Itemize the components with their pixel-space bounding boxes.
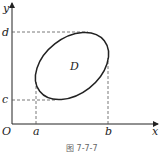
origin-label: O bbox=[2, 125, 11, 138]
tick-label-c: c bbox=[2, 93, 8, 106]
region-label-d: D bbox=[69, 60, 79, 73]
tick-label-a: a bbox=[33, 125, 40, 138]
x-axis-label: x bbox=[152, 125, 159, 138]
tick-label-d: d bbox=[2, 26, 9, 39]
y-axis-label: y bbox=[2, 2, 10, 15]
region-diagram: y x O a b c d D 图 7-7-7 bbox=[0, 0, 163, 153]
tick-label-b: b bbox=[105, 125, 112, 138]
figure-caption: 图 7-7-7 bbox=[66, 144, 98, 153]
